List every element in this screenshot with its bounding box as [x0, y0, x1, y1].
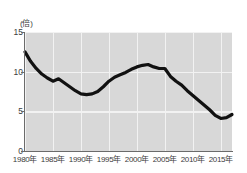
series-line-倍率 [25, 52, 232, 119]
x-tick-label: 1980年 [13, 153, 37, 164]
x-tick-label: 2010年 [181, 153, 205, 164]
x-tick-label: 1995年 [97, 153, 121, 164]
y-tick-mark [21, 72, 24, 73]
y-tick-label: 5 [1, 107, 23, 116]
x-tick-label: 2005年 [153, 153, 177, 164]
y-tick-label: 10 [1, 67, 23, 76]
x-tick-label: 1990年 [69, 153, 93, 164]
y-tick-mark [21, 151, 24, 152]
y-tick-mark [21, 111, 24, 112]
y-tick-label: 15 [1, 28, 23, 37]
y-axis-line [24, 32, 25, 152]
x-tick-label: 2015年 [209, 153, 233, 164]
y-tick-mark [21, 32, 24, 33]
x-tick-label: 1985年 [41, 153, 65, 164]
line-chart: (倍) 151050 1980年1985年1990年1995年2000年2005… [0, 0, 247, 173]
x-axis-tick-labels: 1980年1985年1990年1995年2000年2005年2010年2015年 [0, 153, 247, 173]
y-axis-tick-labels: 151050 [0, 0, 23, 173]
x-tick-label: 2000年 [125, 153, 149, 164]
series-layer [25, 32, 232, 151]
plot-area [25, 32, 232, 151]
x-axis-line [24, 151, 233, 152]
